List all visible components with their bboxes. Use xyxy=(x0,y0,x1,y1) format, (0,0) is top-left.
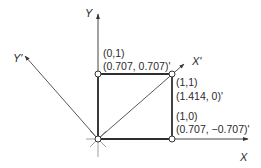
x-prime-axis-label: X' xyxy=(191,55,202,67)
point-0-1-rotated-label: (0.707, 0.707)' xyxy=(103,60,170,72)
y-axis-label: Y xyxy=(85,7,93,19)
point-1-0 xyxy=(169,136,175,142)
point-1-1-orig-label: (1,1) xyxy=(176,76,198,88)
y-prime-axis-label: Y' xyxy=(13,52,23,64)
point-0-1 xyxy=(95,71,101,77)
point-0-1-orig-label: (0,1) xyxy=(103,47,125,59)
point-1-0-orig-label: (1,0) xyxy=(176,110,198,122)
rotation-diagram: Y X X' Y' (0,1) (0.707, 0.707)' (1,1) (1… xyxy=(0,0,261,168)
y-prime-axis xyxy=(25,56,98,139)
point-1-1-rotated-label: (1.414, 0)' xyxy=(176,90,223,102)
point-1-0-rotated-label: (0.707, −0.707)' xyxy=(176,123,250,135)
x-axis-label: X xyxy=(239,151,248,163)
point-origin xyxy=(95,136,101,142)
